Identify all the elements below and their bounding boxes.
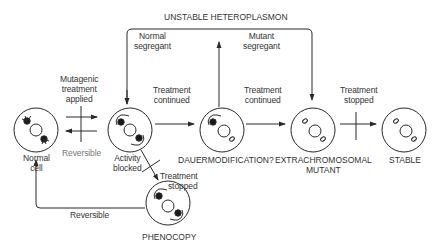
stable-cell-icon (382, 108, 426, 152)
treatment-continued-label-2: Treatment continued (244, 85, 282, 105)
treatment-continued-label-1: Treatment continued (153, 85, 191, 105)
arrow-blocked-to-phenocopy (141, 150, 160, 180)
arrow-extra-to-stable (340, 112, 376, 140)
normal-cell-label: Normal cell (23, 153, 50, 173)
dauermodification-label: DAUERMODIFICATION? (178, 155, 274, 165)
phenocopy-label: PHENOCOPY (142, 232, 196, 242)
activity-blocked-cell-icon (108, 108, 152, 152)
extrachromosomal-mutant-cell-icon (291, 108, 335, 152)
normal-segregant-label: Normal segregant (134, 31, 171, 51)
treatment-stopped-phenocopy-label: Treatment stopped (160, 171, 198, 191)
mutagenic-treatment-arrows (66, 106, 97, 142)
treatment-stopped-stable-label: Treatment stopped (340, 85, 378, 105)
mutagenic-treatment-label: Mutagenic treatment applied (60, 74, 98, 104)
normal-cell-icon (14, 108, 58, 152)
reversible-top-label: Reversible (62, 148, 101, 158)
diagram-canvas (0, 0, 436, 251)
mutant-segregant-label: Mutant segregant (243, 31, 280, 51)
reversible-bottom-label: Reversible (70, 210, 109, 220)
dauermodification-cell-icon (200, 108, 244, 152)
heteroplasmon-title: UNSTABLE HETEROPLASMON (164, 12, 288, 22)
extrachromosomal-mutant-label: EXTRACHROMOSOMAL MUTANT (275, 155, 372, 175)
activity-blocked-label: Activity blocked (113, 153, 142, 173)
stable-label: STABLE (389, 155, 421, 165)
